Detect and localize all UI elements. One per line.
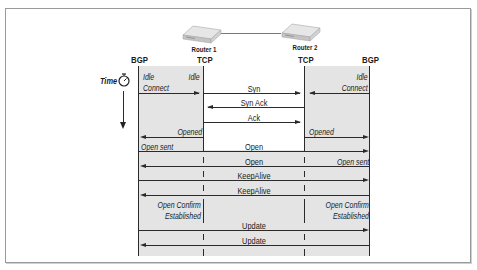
time-arrow-head [120,122,126,129]
router-1-label: Router 1 [186,45,222,54]
r1-state-open-confirm: Open Confirm [158,200,201,210]
arrowhead-left [140,243,146,247]
r2-state-established: Established [333,211,369,221]
router-2-tcp-lifeline [304,66,305,152]
tcp-dash [203,234,204,240]
tcp-dash [304,249,305,256]
msg-keepalive-2-arrow [145,195,370,196]
r2-state-idle: Idle [357,72,368,82]
arrowhead-right [295,120,301,124]
msg-open-2-arrow [145,166,370,167]
time-arrow-shaft [123,91,124,123]
r1-state-idle: Idle [143,72,154,82]
tcp-dash [203,185,204,191]
r1-connect-arrow [139,93,199,94]
r1-opened-arrow [143,137,203,138]
tcp-dash [203,171,204,177]
r2-state-idle: Idle [189,72,200,82]
tcp-dash [304,199,305,223]
router-2-tcp-header: TCP [298,54,314,65]
msg-syn-arrow [204,93,300,94]
arrowhead-right [363,178,369,182]
tcp-dash [304,157,305,163]
r2-opened-arrow [305,137,364,138]
router-2-device-icon [280,22,322,42]
r1-state-opened: Opened [177,127,202,137]
router-1-bgp-lifeline [138,66,139,256]
r2-state-connect: Connect [342,83,368,93]
router-1-device-icon [181,24,223,44]
r2-connect-arrow [310,93,369,94]
arrowhead-left [140,193,146,197]
arrowhead-right [295,91,301,95]
arrowhead-right [363,149,369,153]
tcp-dash [304,185,305,191]
r1-state-established: Established [165,211,201,221]
tcp-dash [304,171,305,177]
msg-synack-arrow [208,107,305,108]
arrowhead-right [363,135,369,139]
arrowhead-right [194,91,200,95]
msg-ack-arrow [204,122,300,123]
router-1-bgp-header: BGP [131,54,148,65]
tcp-dash [203,249,204,256]
arrowhead-left [140,135,146,139]
router-link-line [221,33,281,34]
router-2-label: Router 2 [287,43,323,52]
router-1-tcp-header: TCP [197,54,213,65]
r2-state-opened: Opened [309,127,334,137]
stopwatch-icon [117,72,131,88]
arrowhead-left [207,105,213,109]
r1-state-connect: Connect [143,83,169,93]
router-1-tcp-lifeline [203,66,204,152]
arrowhead-right [363,228,369,232]
time-label: Time [100,76,117,86]
router-2-bgp-header: BGP [362,54,379,65]
r2-state-open-confirm: Open Confirm [326,200,369,210]
arrowhead-left [309,91,315,95]
tcp-dash [203,157,204,163]
msg-open-1-arrow [139,151,364,152]
arrowhead-left [140,164,146,168]
tcp-dash [203,199,204,223]
msg-keepalive-1-arrow [139,180,364,181]
msg-update-1-arrow [139,230,364,231]
msg-update-2-arrow [145,245,370,246]
tcp-dash [304,234,305,240]
